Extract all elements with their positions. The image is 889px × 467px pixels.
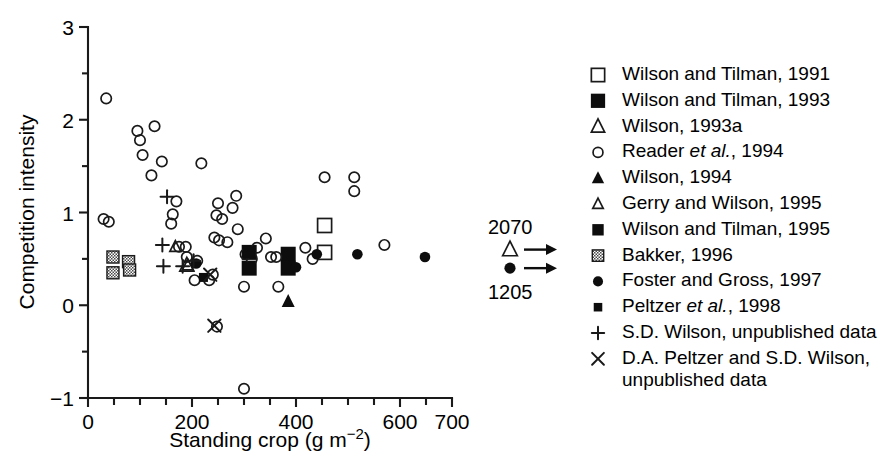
legend: Wilson and Tilman, 1991Wilson and Tilman… — [591, 63, 877, 390]
marker-open-circle — [181, 242, 191, 252]
legend-item-label: Bakker, 1996 — [622, 244, 733, 265]
offscale-value-label: 2070 — [488, 216, 533, 238]
marker-filled-circle — [504, 263, 515, 274]
marker-filled-circle — [291, 262, 302, 273]
legend-item-label: Peltzer et al., 1998 — [622, 295, 780, 316]
y-axis-ticks — [79, 27, 88, 398]
marker-open-circle — [137, 150, 147, 160]
offscale-annotation-1: 1205 — [488, 263, 557, 304]
legend-item-label: Wilson and Tilman, 1993 — [622, 89, 830, 110]
marker-filled-square-large — [281, 247, 296, 262]
axis-group — [88, 27, 452, 398]
marker-open-circle — [213, 198, 223, 208]
y-tick-label: 1 — [62, 202, 74, 225]
legend-item-label: Wilson and Tilman, 1991 — [622, 63, 830, 84]
marker-filled-square-med — [592, 224, 603, 235]
legend-item-9[interactable]: Peltzer et al., 1998 — [594, 295, 781, 316]
marker-open-circle — [349, 172, 359, 182]
arrow-head-icon — [546, 263, 557, 274]
marker-plus — [156, 238, 169, 251]
series-8 — [191, 249, 430, 273]
marker-open-circle — [593, 147, 603, 157]
series-4 — [282, 294, 295, 307]
legend-item-6[interactable]: Wilson and Tilman, 1995 — [592, 218, 830, 239]
marker-open-circle — [196, 158, 206, 168]
legend-item-label: Wilson, 1993a — [622, 115, 743, 136]
legend-item-2[interactable]: Wilson, 1993a — [591, 115, 742, 136]
marker-open-circle — [273, 282, 283, 292]
x-axis-title-superscript: −2 — [347, 425, 364, 442]
y-tick-label: 3 — [62, 16, 74, 39]
arrow-head-icon — [546, 244, 557, 255]
series-11 — [204, 268, 221, 331]
marker-open-square — [318, 218, 332, 232]
legend-item-label: Gerry and Wilson, 1995 — [622, 192, 822, 213]
legend-item-4[interactable]: Wilson, 1994 — [592, 166, 732, 187]
legend-item-label: D.A. Peltzer and S.D. Wilson, — [622, 347, 870, 368]
legend-item-label: Reader et al., 1994 — [622, 140, 784, 161]
legend-item-label: Wilson, 1994 — [622, 166, 732, 187]
y-tick-label: 0 — [62, 294, 74, 317]
x-tick-label: 600 — [382, 410, 417, 433]
legend-item-label-line2: unpublished data — [622, 369, 767, 390]
marker-filled-circle — [593, 276, 603, 286]
marker-plus — [157, 260, 170, 273]
legend-item-label: Wilson and Tilman, 1995 — [622, 218, 830, 239]
legend-item-5[interactable]: Gerry and Wilson, 1995 — [593, 192, 822, 213]
series-10 — [156, 190, 200, 273]
y-axis-title: Competition intensity — [15, 114, 38, 309]
y-tick-label: 2 — [62, 109, 74, 132]
marker-open-circle — [231, 191, 241, 201]
x-axis-title: Standing crop (g m−2) — [169, 425, 371, 451]
marker-open-circle — [146, 170, 156, 180]
marker-open-circle — [149, 121, 159, 131]
marker-filled-circle — [312, 249, 323, 260]
legend-item-11[interactable]: D.A. Peltzer and S.D. Wilson,unpublished… — [592, 347, 870, 390]
x-tick-label: 700 — [434, 410, 469, 433]
legend-item-1[interactable]: Wilson and Tilman, 1993 — [591, 89, 830, 110]
legend-item-0[interactable]: Wilson and Tilman, 1991 — [591, 63, 830, 84]
marker-filled-circle — [352, 249, 363, 260]
marker-cross — [592, 353, 604, 365]
marker-open-circle — [233, 224, 243, 234]
marker-filled-triangle — [592, 171, 604, 183]
series-6 — [243, 246, 255, 274]
marker-hatched-square — [107, 251, 119, 263]
offscale-annotations: 20701205 — [488, 216, 557, 304]
x-axis-ticks — [88, 398, 452, 407]
marker-filled-square-small — [594, 303, 603, 312]
legend-item-label: Foster and Gross, 1997 — [622, 269, 822, 290]
legend-item-3[interactable]: Reader et al., 1994 — [593, 140, 784, 161]
marker-open-circle — [135, 135, 145, 145]
x-axis-title-main: Standing crop (g m — [169, 428, 346, 451]
y-axis-tick-labels: −10123 — [50, 16, 74, 410]
scatter-plot-svg: −10123 0200400600700 Competition intensi… — [0, 0, 889, 467]
offscale-value-label: 1205 — [488, 281, 533, 303]
marker-hatched-square — [124, 264, 136, 276]
marker-open-triangle-large — [503, 241, 518, 256]
marker-open-triangle-large — [591, 119, 604, 132]
marker-hatched-square — [592, 250, 603, 261]
legend-item-7[interactable]: Bakker, 1996 — [592, 244, 733, 265]
legend-item-10[interactable]: S.D. Wilson, unpublished data — [592, 321, 877, 342]
marker-filled-square-med — [243, 246, 255, 258]
data-points-layer — [98, 93, 430, 394]
marker-open-square — [591, 68, 604, 81]
figure-root: −10123 0200400600700 Competition intensi… — [0, 0, 889, 467]
marker-filled-circle — [420, 252, 431, 263]
marker-filled-square-large — [591, 94, 605, 108]
marker-filled-triangle — [282, 294, 295, 307]
marker-open-circle — [189, 275, 199, 285]
marker-open-circle — [157, 156, 167, 166]
legend-item-8[interactable]: Foster and Gross, 1997 — [593, 269, 822, 290]
marker-open-circle — [379, 240, 389, 250]
marker-plus — [592, 327, 604, 339]
legend-item-label: S.D. Wilson, unpublished data — [622, 321, 877, 342]
marker-open-circle — [239, 282, 249, 292]
x-axis-title-end: ) — [364, 428, 371, 451]
x-tick-label: 0 — [82, 410, 94, 433]
marker-open-circle — [227, 203, 237, 213]
marker-open-circle — [300, 243, 310, 253]
marker-open-circle — [101, 93, 111, 103]
marker-filled-square-med — [243, 262, 255, 274]
